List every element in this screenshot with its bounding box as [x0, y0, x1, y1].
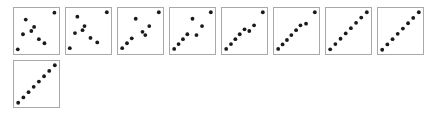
data-point [47, 69, 51, 73]
data-point [141, 30, 145, 34]
data-point [16, 101, 20, 105]
data-point [53, 63, 57, 67]
data-point [16, 47, 20, 51]
scatter-plot-area-9 [14, 61, 59, 107]
data-point [233, 37, 237, 41]
data-point [53, 11, 57, 15]
data-point [209, 10, 213, 14]
data-point [313, 10, 317, 14]
data-point [238, 32, 242, 36]
data-point [89, 36, 93, 40]
data-point [276, 47, 280, 51]
data-point [299, 23, 303, 27]
data-point [333, 42, 337, 46]
data-point [247, 29, 251, 33]
data-point [125, 41, 129, 45]
data-point [27, 90, 31, 94]
data-point [130, 36, 134, 40]
data-point [359, 16, 363, 20]
data-point [304, 22, 308, 26]
data-point [134, 17, 138, 21]
data-point [105, 10, 109, 14]
data-point [396, 32, 400, 36]
data-point [411, 16, 415, 20]
scatter-panel-3 [117, 7, 164, 55]
data-point [185, 32, 189, 36]
data-point [385, 43, 389, 47]
scatter-plot-area-4 [170, 8, 215, 54]
data-point [380, 48, 384, 52]
data-point [289, 33, 293, 37]
scatter-panel-8 [377, 7, 424, 55]
data-point [365, 10, 369, 14]
data-point [406, 21, 410, 25]
data-point [24, 18, 28, 22]
data-point [281, 43, 285, 47]
data-point [143, 33, 147, 37]
scatter-plot-area-2 [66, 8, 111, 54]
data-point [42, 74, 46, 78]
data-point [195, 33, 199, 37]
data-point [95, 41, 99, 45]
data-point [21, 96, 25, 100]
data-point [328, 47, 332, 51]
data-point [200, 24, 204, 28]
data-point [68, 46, 72, 50]
data-point [243, 27, 247, 31]
data-point [157, 10, 161, 14]
data-point [229, 42, 233, 46]
scatter-panel-9 [13, 60, 60, 108]
scatter-panel-6 [273, 7, 320, 55]
data-point [73, 31, 77, 35]
data-point [32, 25, 36, 29]
data-point [261, 10, 265, 14]
data-point [349, 26, 353, 30]
scatter-plot-area-8 [378, 8, 423, 54]
data-point [37, 80, 41, 84]
data-point [120, 46, 124, 50]
data-point [75, 15, 79, 19]
data-point [252, 23, 256, 27]
scatter-panel-1 [13, 7, 60, 55]
data-point [181, 37, 185, 41]
data-point [191, 17, 195, 21]
scatter-plot-area-3 [118, 8, 163, 54]
scatter-plot-area-1 [14, 8, 59, 54]
data-point [147, 24, 151, 28]
data-point [172, 47, 176, 51]
data-point [177, 42, 181, 46]
data-point [294, 28, 298, 32]
data-point [29, 29, 33, 33]
data-point [417, 10, 421, 14]
data-point [344, 32, 348, 36]
data-point [339, 37, 343, 41]
data-point [354, 21, 358, 25]
scatter-panel-4 [169, 7, 216, 55]
data-point [401, 27, 405, 31]
scatter-panel-7 [325, 7, 372, 55]
scatter-plot-area-7 [326, 8, 371, 54]
data-point [81, 28, 85, 32]
data-point [37, 37, 41, 41]
data-point [391, 37, 395, 41]
scatter-panel-2 [65, 7, 112, 55]
data-point [224, 47, 228, 51]
data-point [32, 85, 36, 89]
scatter-plot-area-5 [222, 8, 267, 54]
data-point [43, 41, 47, 45]
scatter-panel-5 [221, 7, 268, 55]
data-point [21, 32, 25, 36]
scatter-plot-area-6 [274, 8, 319, 54]
data-point [285, 38, 289, 42]
data-point [83, 24, 87, 28]
